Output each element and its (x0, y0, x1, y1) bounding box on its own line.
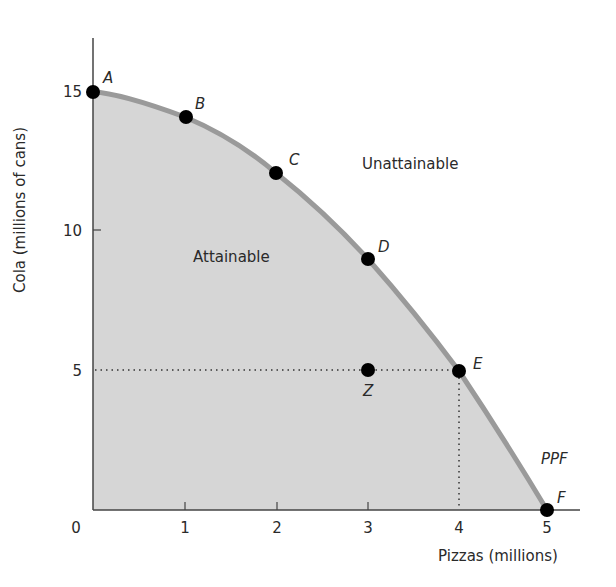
point-label-d: D (378, 240, 390, 255)
point-label-f: F (557, 491, 566, 506)
x-tick-label-3: 3 (363, 521, 373, 536)
point-b (179, 110, 193, 124)
point-label-e: E (473, 357, 482, 372)
y-tick-label-15: 15 (63, 85, 82, 100)
x-tick-label-0: 0 (71, 521, 81, 536)
point-a (86, 85, 100, 99)
point-label-b: B (195, 97, 205, 112)
ppf-label: PPF (541, 452, 568, 467)
point-e (452, 364, 466, 378)
point-label-a: A (103, 71, 113, 86)
point-f (540, 503, 554, 517)
point-z (361, 363, 375, 377)
y-tick-label-5: 5 (72, 364, 82, 379)
attainable-region (93, 92, 547, 510)
x-tick-label-2: 2 (272, 521, 282, 536)
x-axis-label: Pizzas (millions) (438, 549, 558, 564)
y-axis-label: Cola (millions of cans) (11, 127, 29, 293)
ppf-chart (0, 0, 616, 587)
attainable-label: Attainable (193, 250, 270, 265)
point-label-z: Z (363, 384, 373, 399)
point-d (361, 252, 375, 266)
point-c (269, 166, 283, 180)
x-tick-label-4: 4 (454, 521, 464, 536)
unattainable-label: Unattainable (362, 157, 458, 172)
y-tick-label-10: 10 (63, 224, 82, 239)
x-tick-label-5: 5 (542, 521, 552, 536)
point-label-c: C (289, 153, 299, 168)
x-tick-label-1: 1 (180, 521, 190, 536)
